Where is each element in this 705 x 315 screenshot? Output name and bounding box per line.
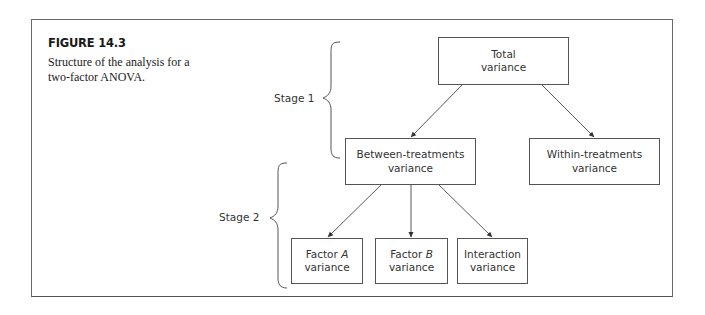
node-factor-b-line2: variance [389,261,434,273]
stage-2-label: Stage 2 [219,211,259,223]
stage-2-brace [270,163,287,288]
arrow-between-to-interaction [438,184,492,237]
node-between-treatments-variance: Between-treatmentsvariance [345,138,476,185]
node-between-line1: Between-treatments [357,148,465,160]
arrow-total-to-within [541,84,594,137]
node-interaction-line2: variance [470,261,515,273]
node-factor-a-line2: variance [304,261,349,273]
arrow-total-to-between [411,84,463,137]
node-factor-b-variance: Factor Bvariance [375,238,448,284]
node-within-treatments-variance: Within-treatmentsvariance [529,138,660,185]
node-interaction-line1: Interaction [464,248,521,260]
node-between-line2: variance [388,162,433,174]
node-total-line1: Total [491,48,516,60]
node-factor-a-letter: A [341,248,348,260]
stage-1-brace [323,42,340,158]
node-within-line1: Within-treatments [547,148,642,160]
node-total-line2: variance [481,61,526,73]
node-interaction-variance: Interactionvariance [457,238,528,284]
node-factor-a-variance: Factor Avariance [291,238,363,284]
node-factor-b-prefix: Factor [390,248,425,260]
node-total-variance: Totalvariance [438,37,569,85]
node-factor-b-letter: B [426,248,433,260]
stage-1-label: Stage 1 [274,92,314,104]
node-factor-a-prefix: Factor [306,248,341,260]
arrow-between-to-factor-a [328,184,382,237]
node-within-line2: variance [572,162,617,174]
